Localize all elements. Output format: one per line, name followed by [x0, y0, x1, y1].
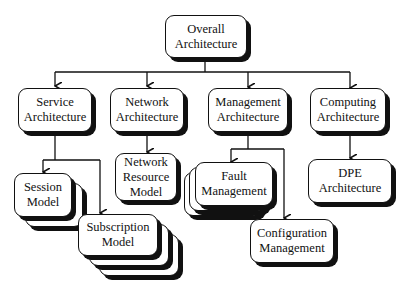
computing-architecture-box: Computing Architecture	[310, 88, 386, 132]
management-architecture-label: Management Architecture	[215, 95, 280, 125]
network-resource-model-label: Network Resource Model	[123, 155, 170, 200]
overall-architecture-label: Overall Architecture	[175, 22, 237, 52]
configuration-management-label: Configuration Management	[257, 226, 327, 256]
network-resource-model-box: Network Resource Model	[115, 153, 177, 201]
session-model-label: Session Model	[24, 180, 62, 210]
overall-architecture-box: Overall Architecture	[165, 15, 247, 58]
subscription-model-label: Subscription Model	[86, 220, 149, 250]
network-architecture-box: Network Architecture	[110, 88, 184, 132]
service-architecture-label: Service Architecture	[24, 95, 86, 125]
subscription-model-box: Subscription Model	[78, 214, 158, 256]
network-architecture-label: Network Architecture	[116, 95, 178, 125]
fault-management-label: Fault Management	[201, 169, 266, 199]
management-architecture-box: Management Architecture	[208, 88, 288, 132]
service-architecture-box: Service Architecture	[18, 88, 92, 132]
dpe-architecture-label: DPE Architecture	[319, 166, 381, 196]
fault-management-box: Fault Management	[195, 162, 273, 206]
computing-architecture-label: Computing Architecture	[317, 95, 379, 125]
configuration-management-box: Configuration Management	[250, 219, 334, 263]
dpe-architecture-box: DPE Architecture	[308, 159, 392, 203]
session-model-box: Session Model	[14, 173, 72, 217]
